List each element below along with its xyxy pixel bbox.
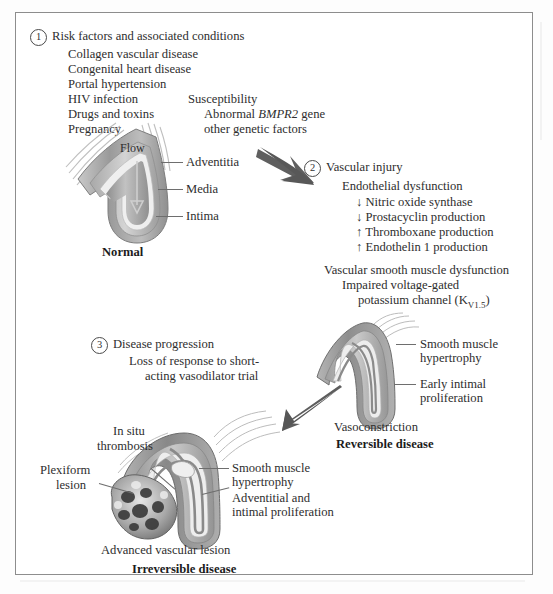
adventitia-leader [161,162,183,163]
susceptibility-gene-line: Abnormal BMPR2 gene [204,107,325,122]
risk-factor-item: Drugs and toxins [68,107,154,122]
smooth-muscle-dysfunction-heading: Vascular smooth muscle dysfunction [324,263,509,278]
in-situ-thrombosis-label-line2: thrombosis [97,439,153,454]
smooth-muscle-hypertrophy-leader-2 [199,468,229,469]
endothelial-dysfunction-heading: Endothelial dysfunction [342,179,463,194]
susceptibility-gene-name: BMPR2 [258,107,298,121]
impaired-channel-line2: potassium channel (KV1.5) [358,293,490,312]
channel-pre: potassium channel (K [358,293,468,307]
risk-factor-item: Portal hypertension [68,77,166,92]
step-1-heading: Risk factors and associated conditions [52,29,244,44]
advanced-vascular-lesion-caption: Advanced vascular lesion [101,543,230,558]
intima-label: Intima [186,209,219,224]
scan-artifact [540,22,542,140]
susceptibility-heading: Susceptibility [188,92,257,107]
channel-subscript: V1.5 [468,300,486,310]
reversible-disease-caption: Reversible disease [336,437,434,452]
step-1-marker: 1 [30,29,47,46]
smooth-muscle-hypertrophy-label-2-line2: hypertrophy [232,475,294,490]
smooth-muscle-hypertrophy-label-1-line2: hypertrophy [420,351,482,366]
media-leader [158,189,183,190]
figure-border: 1 Risk factors and associated conditions… [15,12,533,575]
endothelial-item: ↓ Prostacyclin production [356,210,485,225]
smooth-muscle-hypertrophy-label-2-line1: Smooth muscle [232,461,310,476]
smooth-muscle-hypertrophy-label-1-line1: Smooth muscle [420,337,498,352]
susceptibility-gene-post: gene [298,107,325,121]
step-3-marker: 3 [91,337,108,354]
risk-factor-item: Congenital heart disease [68,62,191,77]
endothelial-item: ↓ Nitric oxide synthase [356,195,472,210]
endothelial-item: ↑ Thromboxane production [356,225,494,240]
irreversible-disease-caption: Irreversible disease [132,562,236,577]
impaired-channel-line1: Impaired voltage-gated [342,278,459,293]
adventitia-label: Adventitia [186,155,239,170]
risk-factor-item: Collagen vascular disease [68,47,198,62]
in-situ-thrombosis-label-line1: In situ [113,424,145,439]
susceptibility-gene-pre: Abnormal [204,107,258,121]
channel-post: ) [486,293,490,307]
step-2-heading: Vascular injury [326,160,403,175]
early-intimal-leader [394,384,416,385]
normal-vessel-caption: Normal [102,245,143,260]
plexiform-lesion-label-line2: lesion [56,478,86,493]
adventitial-proliferation-label-line2: intimal proliferation [232,505,334,520]
risk-factor-item: HIV infection [68,92,138,107]
step-2-marker: 2 [304,160,321,177]
susceptibility-other-factors: other genetic factors [204,122,307,137]
vasoconstriction-caption: Vasoconstriction [334,420,418,435]
adventitial-proliferation-label-line1: Adventitial and [232,491,310,506]
intima-leader [156,216,183,217]
scan-artifact [20,580,525,582]
early-intimal-label-line1: Early intimal [420,377,486,392]
step-3-line2: acting vasodilator trial [145,369,258,384]
step-3-heading: Disease progression [113,337,214,352]
smooth-muscle-hypertrophy-leader-1 [396,344,416,345]
media-label: Media [186,182,218,197]
early-intimal-label-line2: proliferation [420,391,483,406]
flow-label: Flow [120,141,145,156]
figure-page: 1 Risk factors and associated conditions… [0,0,553,594]
plexiform-lesion-label-line1: Plexiform [40,463,90,478]
step-3-line1: Loss of response to short- [129,354,259,369]
endothelial-item: ↑ Endothelin 1 production [356,240,488,255]
